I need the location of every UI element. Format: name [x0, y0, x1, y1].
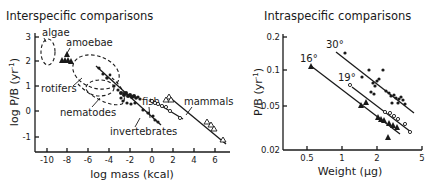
amoebae-label: amoebae [66, 37, 113, 48]
right-ytick: 0.02 [261, 145, 280, 155]
mammals-label: mammals [184, 96, 233, 107]
left-xtick: 0 [149, 155, 154, 165]
right-x-axis-label: Weight (µg) [318, 165, 382, 178]
left-ytick-0: 0 [26, 106, 31, 116]
right-xtick: 2 [374, 153, 379, 163]
left-ytick-3: 3 [26, 32, 31, 42]
interspecific-chart: Interspecific comparisons 3 2 1 0 -1 [6, 9, 233, 181]
temp-16-label: 16° [300, 53, 318, 64]
right-xtick: 5 [419, 153, 424, 163]
left-xtick: -6 [84, 155, 92, 165]
invertebrates-label: invertebrates [110, 126, 177, 137]
temp-30-label: 30° [326, 39, 344, 50]
left-xtick: 6 [212, 155, 217, 165]
right-xtick: 1 [339, 153, 344, 163]
left-ytick-2: 2 [26, 56, 31, 66]
right-ytick: 0.2 [266, 32, 280, 42]
left-x-ticks: -10 -8 -6 -4 -2 0 2 4 6 [40, 148, 218, 165]
left-y-ticks: 3 2 1 0 -1 [23, 32, 39, 142]
left-ytick-1: 1 [26, 81, 31, 91]
nematodes-label: nematodes [60, 107, 116, 118]
right-x-ticks: 0.5 1 2 5 [300, 146, 424, 163]
rotifers-label: rotifers [41, 83, 77, 94]
figure-canvas: Interspecific comparisons 3 2 1 0 -1 [0, 0, 429, 184]
left-xtick: -4 [105, 155, 113, 165]
left-ytick-neg1: -1 [23, 132, 31, 142]
amoebae-points [59, 51, 74, 64]
right-ytick: 0.1 [266, 65, 280, 75]
left-xtick: -2 [126, 155, 134, 165]
left-chart-title: Interspecific comparisons [6, 9, 153, 23]
fit-19 [352, 87, 411, 132]
algae-region [41, 39, 55, 65]
temp-19-label: 19° [338, 72, 356, 83]
left-x-axis-label: log mass (kcal) [90, 168, 173, 181]
right-y-axis-label: P/B (yr-1) [252, 68, 265, 116]
left-xtick: -8 [63, 155, 71, 165]
left-xtick: 2 [170, 155, 175, 165]
right-xtick: 0.5 [300, 153, 314, 163]
left-y-axis-label: log P/B (yr-1) [8, 58, 21, 126]
left-xtick: -10 [40, 155, 54, 165]
intraspecific-chart: Intraspecific comparisons 0.2 0.1 0.05 0… [252, 9, 425, 178]
left-xtick: 4 [191, 155, 196, 165]
right-chart-title: Intraspecific comparisons [264, 9, 411, 23]
